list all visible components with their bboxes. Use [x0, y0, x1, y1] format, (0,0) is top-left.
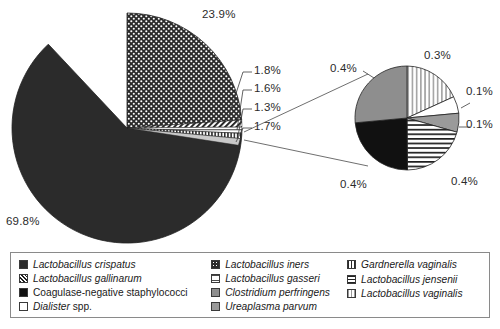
- legend-column-2: Lactobacillus iners Lactobacillus gasser…: [211, 258, 347, 313]
- legend-label-staphylococci: Coagulase-negative staphylococci: [33, 287, 188, 298]
- chart-canvas: 23.9% 69.8% 1.8% 1.6% 1.3% 1.7% 0.3% 0.4…: [0, 0, 500, 329]
- legend-item-gallinarum[interactable]: Lactobacillus gallinarum: [19, 272, 211, 285]
- legend-label-gardnerella: Gardnerella vaginalis: [361, 259, 457, 270]
- label-inset-staph-pct: 0.4%: [340, 178, 367, 190]
- swatch-black-icon: [19, 288, 28, 297]
- swatch-diagonal-hatch-icon: [19, 274, 28, 283]
- swatch-dots-icon: [211, 260, 220, 269]
- label-gardnerella-pct: 1.3%: [254, 101, 281, 113]
- main-pie: [12, 13, 242, 243]
- legend-item-crispatus[interactable]: Lactobacillus crispatus: [19, 258, 211, 271]
- legend-item-vaginalis[interactable]: Lactobacillus vaginalis: [347, 287, 483, 301]
- label-small-group-pct: 1.7%: [254, 120, 281, 132]
- label-inset-jensenii-pct: 0.4%: [451, 175, 478, 187]
- legend-label-dialister: Dialister spp.: [33, 301, 92, 312]
- swatch-white-icon: [19, 302, 28, 311]
- legend-label-vaginalis: Lactobacillus vaginalis: [361, 288, 462, 299]
- legend-item-gardnerella[interactable]: Gardnerella vaginalis: [347, 258, 483, 272]
- legend-label-gallinarum: Lactobacillus gallinarum: [33, 273, 142, 284]
- legend-label-clostridium: Clostridium perfringens: [225, 287, 330, 298]
- label-inset-ureaplasma-pct: 0.1%: [466, 118, 493, 130]
- legend-item-ureaplasma[interactable]: Ureaplasma parvum: [211, 300, 347, 313]
- label-inset-vaginalis-pct: 0.3%: [424, 49, 451, 61]
- label-inset-dialister-pct: 0.1%: [466, 85, 493, 97]
- legend-column-3: Gardnerella vaginalis Lactobacillus jens…: [347, 258, 483, 313]
- label-inset-clostridium-pct: 0.4%: [330, 62, 357, 74]
- swatch-horizontal-lines-light-icon: [211, 274, 220, 283]
- legend: Lactobacillus crispatus Lactobacillus ga…: [10, 252, 490, 318]
- inset-slice-staphylococci: [355, 118, 407, 170]
- legend-item-iners[interactable]: Lactobacillus iners: [211, 258, 347, 271]
- swatch-gray-2-icon: [211, 302, 220, 311]
- swatch-gray-icon: [211, 288, 220, 297]
- slice-iners: [127, 13, 242, 128]
- legend-label-dialister-suffix: spp.: [70, 301, 92, 312]
- legend-item-clostridium[interactable]: Clostridium perfringens: [211, 286, 347, 299]
- label-crispatus-pct: 69.8%: [6, 215, 40, 227]
- swatch-horizontal-lines-icon: [347, 275, 356, 284]
- swatch-solid-dark-icon: [19, 260, 28, 269]
- swatch-vertical-lines-icon: [347, 260, 356, 269]
- legend-item-staphylococci[interactable]: Coagulase-negative staphylococci: [19, 286, 211, 299]
- legend-item-gasseri[interactable]: Lactobacillus gasseri: [211, 272, 347, 285]
- legend-column-1: Lactobacillus crispatus Lactobacillus ga…: [19, 258, 211, 313]
- legend-label-crispatus: Lactobacillus crispatus: [33, 259, 136, 270]
- legend-label-jensenii: Lactobacillus jensenii: [361, 274, 457, 285]
- legend-label-dialister-genus: Dialister: [33, 301, 70, 312]
- inset-slice-clostridium: [355, 66, 407, 123]
- legend-label-iners: Lactobacillus iners: [225, 259, 309, 270]
- label-iners-pct: 23.9%: [202, 8, 236, 20]
- inset-pie: [355, 66, 459, 170]
- label-gallinarum-pct: 1.8%: [254, 64, 281, 76]
- label-gasseri-pct: 1.6%: [254, 82, 281, 94]
- legend-label-ureaplasma: Ureaplasma parvum: [225, 301, 317, 312]
- pie-chart-graphic: [0, 0, 500, 250]
- legend-item-jensenii[interactable]: Lactobacillus jensenii: [347, 273, 483, 287]
- swatch-vertical-lines-light-icon: [347, 289, 356, 298]
- legend-item-dialister[interactable]: Dialister spp.: [19, 300, 211, 313]
- legend-label-gasseri: Lactobacillus gasseri: [225, 273, 320, 284]
